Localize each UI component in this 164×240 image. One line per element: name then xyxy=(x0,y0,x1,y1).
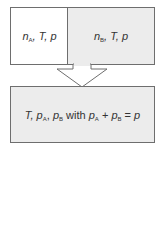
mixture-state: T, pA, pB with pA + pB = p xyxy=(10,86,155,143)
mixture-state-label: T, pA, pB with pA + pB = p xyxy=(11,108,154,121)
